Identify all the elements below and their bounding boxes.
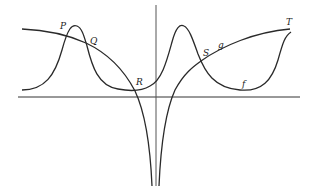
curve-g-left-branch <box>22 29 152 186</box>
curve-g-right-branch <box>159 29 290 186</box>
point-label-q: Q <box>90 36 98 46</box>
graph-svg: P Q R S T g f <box>0 0 312 192</box>
point-label-p: P <box>59 21 67 31</box>
point-label-t: T <box>286 17 293 27</box>
curve-label-g: g <box>218 40 224 50</box>
point-label-s: S <box>203 48 209 58</box>
diagram-canvas: P Q R S T g f <box>0 0 312 192</box>
curve-label-f: f <box>241 79 247 89</box>
point-label-r: R <box>135 77 143 87</box>
